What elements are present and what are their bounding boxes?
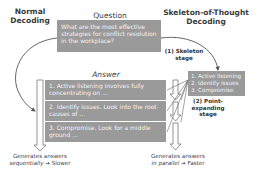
sot-decoding-caption: Generates answers in parallel ➔ Faster bbox=[140, 153, 216, 167]
normal-caption-line1: Generates answers bbox=[0, 153, 80, 160]
normal-caption-result: Slower bbox=[52, 160, 71, 166]
skeleton-stage-line1: (1) Skeleton bbox=[164, 48, 204, 55]
sot-caption-line2: in parallel ➔ Faster bbox=[140, 160, 216, 167]
answer-point-3: 3. Compromise. Look for a middle ground … bbox=[45, 122, 166, 142]
skeleton-point-2: 2. Identify issues bbox=[191, 80, 242, 87]
normal-decoding-caption: Generates answers sequentially ➔ Slower bbox=[0, 153, 80, 167]
answer-point-2: 2. Identify issues. Look into the root c… bbox=[45, 101, 166, 121]
skeleton-box: 1. Active listening 2. Identify issues 3… bbox=[188, 71, 245, 96]
expand-stage-line3: stage bbox=[186, 111, 230, 118]
parallel-hollow-arrow-3 bbox=[170, 123, 181, 150]
right-arrow-icon: ➔ bbox=[45, 160, 50, 166]
question-box: What are the most effective strategies f… bbox=[57, 20, 161, 52]
normal-caption-emphasis: sequentially bbox=[9, 160, 43, 166]
point-expanding-stage-label: (2) Point- expanding stage bbox=[186, 98, 230, 118]
normal-caption-line2: sequentially ➔ Slower bbox=[0, 160, 80, 167]
skeleton-stage-label: (1) Skeleton stage bbox=[164, 48, 204, 61]
normal-decoding-title: Normal Decoding bbox=[4, 8, 56, 25]
sot-caption-line1: Generates answers bbox=[140, 153, 216, 160]
answer-label: Answer bbox=[80, 70, 132, 79]
answer-point-1: 1. Active listening involves fully conce… bbox=[45, 80, 166, 100]
sot-caption-result: Faster bbox=[187, 160, 204, 166]
skeleton-point-3: 3. Compromise bbox=[191, 87, 242, 94]
sot-caption-emphasis: in parallel bbox=[152, 160, 180, 166]
parallel-hollow-arrow-1 bbox=[170, 80, 181, 100]
sot-decoding-title: Skeleton-of-Thought Decoding bbox=[158, 9, 254, 26]
skeleton-point-1: 1. Active listening bbox=[191, 73, 242, 80]
skeleton-stage-line2: stage bbox=[164, 55, 204, 62]
sot-title-line2: Decoding bbox=[158, 18, 254, 27]
right-arrow-icon: ➔ bbox=[181, 160, 186, 166]
normal-title-line2: Decoding bbox=[4, 17, 56, 26]
question-label: Question bbox=[80, 11, 140, 20]
